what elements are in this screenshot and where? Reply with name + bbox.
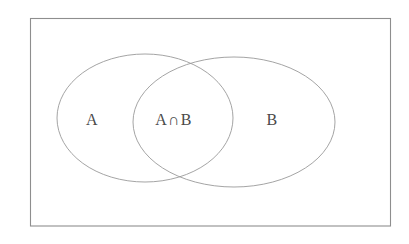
venn-diagram-canvas: A A∩B B: [0, 0, 409, 244]
set-a-label: A: [86, 111, 98, 128]
intersection-label: A∩B: [155, 111, 192, 128]
set-b-label: B: [266, 111, 277, 128]
venn-diagram-figure: A A∩B B: [0, 0, 409, 244]
universal-set-rectangle: [31, 19, 391, 227]
